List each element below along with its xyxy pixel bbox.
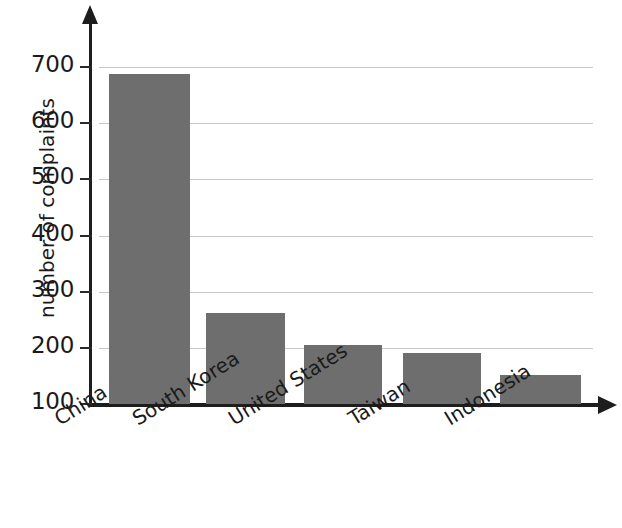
y-axis-tick-label: 200 (12, 332, 74, 358)
y-axis-tick (80, 178, 92, 180)
gridline (99, 67, 593, 68)
y-axis-tick (80, 347, 92, 349)
y-axis-tick-label: 300 (12, 276, 74, 302)
y-axis-tick (80, 235, 92, 237)
y-axis-arrow-icon (82, 5, 98, 24)
y-axis-tick (80, 291, 92, 293)
y-axis-tick-label: 700 (12, 51, 74, 77)
bar-chart: number of complaints 1002003004005006007… (0, 0, 622, 528)
y-axis-tick-label: 400 (12, 220, 74, 246)
y-axis-tick-label: 600 (12, 107, 74, 133)
bar (109, 74, 190, 404)
y-axis-tick (80, 66, 92, 68)
y-axis-tick-label: 500 (12, 163, 74, 189)
y-axis-tick (80, 122, 92, 124)
x-axis-arrow-icon (598, 396, 617, 414)
